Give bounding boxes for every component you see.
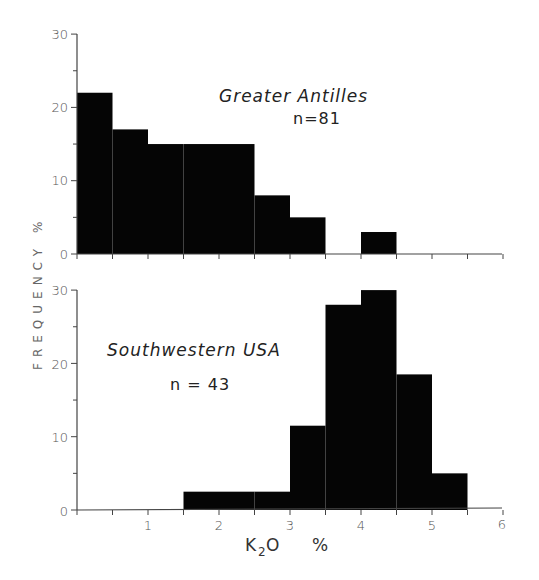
x-axis-label: K 2 O %: [245, 535, 328, 559]
x-axis-label-o: O: [266, 535, 279, 555]
y-axis-label: FREQUENCY %: [31, 216, 45, 370]
xtick-3: 3: [286, 518, 294, 533]
xtick-5: 5: [428, 518, 436, 533]
bottom-ytick-0: 0: [60, 504, 68, 519]
histogram-bar: [432, 473, 468, 510]
bottom-chart-title: Southwestern USA: [107, 340, 281, 360]
bottom-bars: [184, 290, 468, 510]
histogram-bar: [361, 290, 397, 510]
bottom-ytick-30: 30: [51, 283, 68, 298]
bottom-histogram: 0 10 20 30 1 2 3 4 5 6 Southwestern USA …: [51, 283, 506, 533]
bottom-ytick-20: 20: [51, 357, 68, 372]
xtick-6: 6: [498, 517, 506, 532]
histogram-bar: [219, 492, 255, 510]
histogram-bar: [290, 426, 326, 510]
xtick-1: 1: [144, 518, 152, 533]
top-bars: [77, 93, 397, 254]
histogram-bar: [290, 217, 326, 254]
bottom-sample-size: n = 43: [170, 375, 230, 394]
histogram-bar: [184, 144, 220, 254]
histogram-bar: [326, 305, 362, 510]
histogram-figure: 0 10 20 30 Greater Antilles n=81 0 10 20…: [0, 0, 539, 580]
x-axis-label-subscript: 2: [258, 545, 266, 559]
xtick-4: 4: [357, 518, 365, 533]
histogram-bar: [219, 144, 255, 254]
x-axis-label-k: K: [245, 535, 257, 555]
x-axis-unit: %: [312, 535, 328, 555]
top-histogram: 0 10 20 30 Greater Antilles n=81: [51, 27, 503, 262]
xtick-2: 2: [215, 518, 223, 533]
bottom-ytick-10: 10: [51, 430, 68, 445]
top-chart-title: Greater Antilles: [219, 86, 368, 106]
histogram-bar: [255, 492, 291, 510]
histogram-bar: [361, 232, 397, 254]
histogram-bar: [397, 374, 433, 510]
top-sample-size: n=81: [293, 109, 341, 128]
histogram-bar: [184, 492, 220, 510]
histogram-bar: [255, 195, 291, 254]
histogram-bar: [77, 93, 113, 254]
top-ytick-0: 0: [60, 247, 68, 262]
top-ytick-30: 30: [51, 27, 68, 42]
top-ytick-20: 20: [51, 100, 68, 115]
histogram-bar: [113, 129, 149, 254]
histogram-bar: [148, 144, 184, 254]
top-ytick-10: 10: [51, 173, 68, 188]
